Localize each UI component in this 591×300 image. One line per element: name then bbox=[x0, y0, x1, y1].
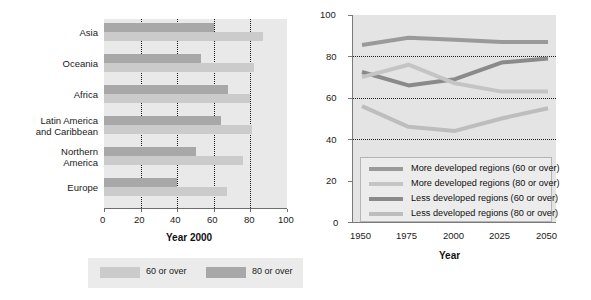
bar-tick-label-60: 60 bbox=[207, 214, 218, 225]
line-ytick-40 bbox=[348, 139, 352, 140]
legend-label-80-or-over: 80 or over bbox=[252, 266, 293, 276]
line-ytick-label-0: 0 bbox=[333, 217, 338, 228]
bar-gridline-40 bbox=[177, 19, 178, 208]
line-xtick-label-2025: 2025 bbox=[489, 230, 510, 241]
line-ytick-60 bbox=[348, 98, 352, 99]
bar-category-africa-line1: Africa bbox=[74, 89, 98, 100]
bar-category-europe-line1: Europe bbox=[67, 182, 98, 193]
line-chart-x-axis-line bbox=[353, 222, 556, 223]
legend-label-60-or-over: 60 or over bbox=[146, 266, 187, 276]
bar-oceania-60plus bbox=[104, 63, 254, 72]
line-ytick-label-20: 20 bbox=[326, 175, 337, 186]
line-legend-swatch-more-developed-60plus bbox=[369, 167, 403, 171]
bar-asia-80plus bbox=[104, 23, 214, 32]
bar-chart-legend: 60 or over 80 or over bbox=[88, 258, 303, 288]
bar-category-label-oceania: Oceania bbox=[14, 59, 98, 70]
line-series-less-developed-80plus bbox=[362, 106, 548, 131]
bar-category-latin-america-line1: Latin America bbox=[14, 116, 98, 127]
line-chart-panel: More developed regions (60 or over) More… bbox=[312, 0, 591, 300]
bar-category-oceania-line1: Oceania bbox=[63, 58, 98, 69]
line-chart-legend: More developed regions (60 or over) More… bbox=[360, 157, 552, 222]
legend-swatch-80-or-over bbox=[206, 267, 246, 278]
line-legend-swatch-less-developed-80plus bbox=[369, 212, 403, 216]
bar-tick-40 bbox=[177, 209, 178, 212]
line-legend-label-more-developed-60plus: More developed regions (60 or over) bbox=[411, 163, 560, 173]
bar-asia-60plus bbox=[104, 32, 263, 41]
bar-gridline-60 bbox=[214, 19, 215, 208]
line-xtick-label-2050: 2050 bbox=[536, 230, 557, 241]
bar-oceania-80plus bbox=[104, 54, 201, 63]
bar-northern-america-80plus bbox=[104, 147, 196, 156]
line-legend-label-more-developed-80plus: More developed regions (80 or over) bbox=[411, 178, 560, 188]
bar-category-label-latin-america: Latin America and Caribbean bbox=[14, 116, 98, 137]
line-series-more-developed-60plus bbox=[362, 38, 548, 45]
bar-latin-america-80plus bbox=[104, 116, 221, 125]
bar-category-northern-america-line2: America bbox=[14, 158, 98, 169]
line-ytick-label-80: 80 bbox=[326, 51, 337, 62]
bar-tick-60 bbox=[214, 209, 215, 212]
line-legend-label-less-developed-60plus: Less developed regions (60 or over) bbox=[411, 193, 558, 203]
bar-northern-america-60plus bbox=[104, 156, 243, 165]
bar-europe-80plus bbox=[104, 178, 177, 187]
bar-category-northern-america-line1: Northern bbox=[14, 147, 98, 158]
line-xtick-label-1975: 1975 bbox=[396, 230, 417, 241]
bar-tick-label-0: 0 bbox=[100, 214, 105, 225]
figure-container: Asia Oceania Africa Latin America and Ca… bbox=[0, 0, 591, 300]
line-chart-y-axis-line bbox=[352, 15, 353, 223]
bar-chart-x-axis-line bbox=[104, 208, 287, 209]
bar-category-label-asia: Asia bbox=[14, 28, 98, 39]
line-legend-label-less-developed-80plus: Less developed regions (80 or over) bbox=[411, 208, 558, 218]
bar-tick-label-100: 100 bbox=[278, 214, 294, 225]
line-ytick-label-60: 60 bbox=[326, 92, 337, 103]
line-legend-swatch-less-developed-60plus bbox=[369, 197, 403, 201]
line-ytick-100 bbox=[348, 15, 352, 16]
bar-latin-america-60plus bbox=[104, 125, 252, 134]
bar-africa-60plus bbox=[104, 94, 250, 103]
bar-tick-100 bbox=[287, 209, 288, 212]
bar-category-latin-america-line2: and Caribbean bbox=[14, 127, 98, 138]
line-ytick-label-40: 40 bbox=[326, 134, 337, 145]
line-legend-swatch-more-developed-80plus bbox=[369, 182, 403, 186]
bar-tick-20 bbox=[141, 209, 142, 212]
bar-tick-label-20: 20 bbox=[134, 214, 145, 225]
bar-africa-80plus bbox=[104, 85, 228, 94]
bar-tick-label-80: 80 bbox=[244, 214, 255, 225]
line-xtick-label-2000: 2000 bbox=[443, 230, 464, 241]
legend-swatch-60-or-over bbox=[100, 267, 140, 278]
bar-category-label-africa: Africa bbox=[14, 90, 98, 101]
line-ytick-80 bbox=[348, 56, 352, 57]
bar-tick-0 bbox=[104, 209, 105, 212]
bar-category-asia-line1: Asia bbox=[80, 27, 98, 38]
line-chart-plot-area: More developed regions (60 or over) More… bbox=[353, 15, 556, 222]
line-ytick-0 bbox=[348, 222, 352, 223]
bar-tick-80 bbox=[250, 209, 251, 212]
bar-category-label-northern-america: Northern America bbox=[14, 147, 98, 168]
bar-chart-plot-area bbox=[104, 19, 287, 208]
bar-europe-60plus bbox=[104, 187, 227, 196]
bar-gridline-80 bbox=[250, 19, 251, 208]
line-chart-axis-title: Year bbox=[439, 250, 460, 261]
bar-category-label-europe: Europe bbox=[14, 183, 98, 194]
line-ytick-label-100: 100 bbox=[320, 9, 336, 20]
bar-tick-label-40: 40 bbox=[170, 214, 181, 225]
bar-chart-axis-title: Year 2000 bbox=[166, 232, 212, 243]
bar-chart-panel: Asia Oceania Africa Latin America and Ca… bbox=[0, 0, 312, 300]
line-xtick-label-1950: 1950 bbox=[350, 230, 371, 241]
line-ytick-20 bbox=[348, 181, 352, 182]
